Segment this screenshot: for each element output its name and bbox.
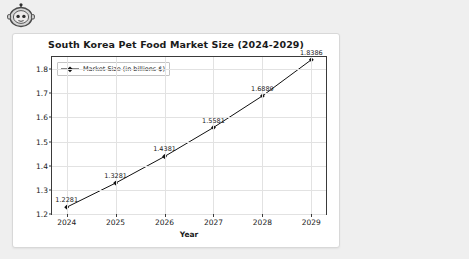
data-point-label: 1.2281 (55, 196, 78, 204)
grid-line-horizontal (52, 93, 326, 94)
grid-line-vertical (213, 57, 214, 214)
grid-line-horizontal (52, 142, 326, 143)
y-tick-label: 1.6 (36, 113, 48, 122)
chart-card: South Korea Pet Food Market Size (2024-2… (12, 33, 340, 248)
series-line (67, 60, 312, 207)
data-point-label: 1.8386 (300, 49, 323, 57)
grid-line-vertical (262, 57, 263, 214)
y-tick-mark (49, 189, 52, 190)
line-chart-figure: South Korea Pet Food Market Size (2024-2… (13, 34, 339, 247)
grid-line-horizontal (52, 190, 326, 191)
x-tick-mark (262, 214, 263, 217)
y-tick-label: 1.7 (36, 89, 48, 98)
y-tick-mark (49, 214, 52, 215)
x-tick-mark (213, 214, 214, 217)
plot-area: Market Size (in billions $) 1.21.31.41.5… (51, 56, 327, 215)
grid-line-vertical (116, 57, 117, 214)
series-line-layer (52, 57, 352, 207)
x-tick-mark (67, 214, 68, 217)
y-tick-mark (49, 93, 52, 94)
y-tick-mark (49, 69, 52, 70)
y-tick-label: 1.2 (36, 210, 48, 219)
x-tick-mark (311, 214, 312, 217)
chart-title: South Korea Pet Food Market Size (2024-2… (13, 39, 339, 50)
x-tick-label: 2028 (253, 218, 272, 227)
x-tick-label: 2025 (106, 218, 125, 227)
y-tick-mark (49, 141, 52, 142)
grid-line-horizontal (52, 69, 326, 70)
x-tick-label: 2029 (302, 218, 321, 227)
y-tick-label: 1.3 (36, 185, 48, 194)
grid-line-horizontal (52, 117, 326, 118)
y-tick-label: 1.4 (36, 161, 48, 170)
x-tick-label: 2024 (57, 218, 76, 227)
y-tick-mark (49, 117, 52, 118)
x-tick-label: 2026 (155, 218, 174, 227)
data-point-label: 1.3281 (104, 172, 127, 180)
x-tick-mark (165, 214, 166, 217)
data-point-label: 1.5581 (202, 117, 225, 125)
robot-avatar-icon (7, 3, 35, 28)
y-tick-label: 1.8 (36, 65, 48, 74)
grid-line-vertical (311, 57, 312, 214)
y-tick-label: 1.5 (36, 137, 48, 146)
grid-line-vertical (67, 57, 68, 214)
data-point-label: 1.4381 (153, 145, 176, 153)
assistant-avatar (7, 3, 35, 28)
grid-line-vertical (165, 57, 166, 214)
y-tick-mark (49, 165, 52, 166)
x-axis-label: Year (51, 230, 327, 239)
x-tick-mark (116, 214, 117, 217)
grid-line-horizontal (52, 214, 326, 215)
x-tick-label: 2027 (204, 218, 223, 227)
data-point-label: 1.6889 (251, 85, 274, 93)
grid-line-horizontal (52, 166, 326, 167)
